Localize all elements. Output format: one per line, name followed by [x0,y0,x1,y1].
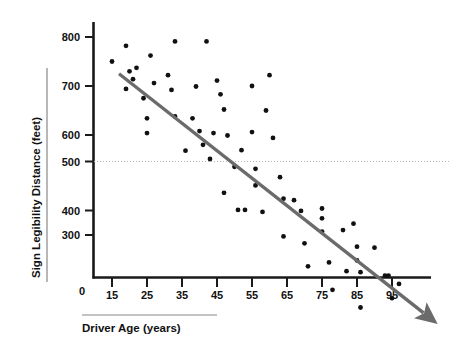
data-point [271,136,276,141]
data-point [152,81,157,86]
x-tick-label: 85 [351,289,363,301]
data-point [218,92,223,97]
x-tick-label: 35 [176,289,188,301]
data-point [208,157,213,162]
data-point [173,39,178,44]
data-point [197,129,202,134]
data-point [131,77,136,82]
y-axis-title: Sign Legibility Distance (feet) [30,117,42,278]
data-point [299,209,304,214]
data-point [225,133,230,138]
data-point [110,59,115,64]
data-point [204,39,209,44]
scatter-plot: Sign Legibility Distance (feet) 800 700 … [0,0,451,350]
data-points-layer [110,39,402,310]
data-point [211,131,216,136]
data-point [141,96,146,101]
data-point [145,116,150,121]
data-point [222,190,227,195]
y-tick-label: 300 [62,229,80,241]
data-point [327,260,332,265]
data-point [320,216,325,221]
y-tick-label: 700 [62,80,80,92]
data-point [341,228,346,233]
y-tick-label: 600 [62,129,80,141]
y-tick-label: 500 [62,156,80,168]
y-axis-tick-labels: 800 700 600 500 400 300 [62,31,80,241]
data-point [190,116,195,121]
x-tick-label: 55 [246,289,258,301]
data-point [320,206,325,211]
data-point [344,269,349,274]
x-tick-label: 65 [281,289,293,301]
data-point [292,198,297,203]
data-point [372,245,377,250]
x-tick-label: 25 [141,289,153,301]
data-point [236,208,241,213]
data-point [194,84,199,89]
data-point [330,287,335,292]
data-point [127,69,132,74]
data-point [390,296,395,301]
data-point [239,148,244,153]
data-point [215,78,220,83]
x-axis-title: Driver Age (years) [82,322,181,334]
data-point [355,244,360,249]
chart-container: Sign Legibility Distance (feet) 800 700 … [0,0,451,350]
data-point [397,282,402,287]
x-tick-label: 45 [211,289,223,301]
data-point [243,208,248,213]
x-axis-ticks [112,278,392,287]
data-point [358,305,363,310]
data-point [260,210,265,215]
data-point [169,88,174,93]
y-axis-ticks [85,37,93,235]
data-point [145,131,150,136]
data-point [183,148,188,153]
data-point [281,234,286,239]
data-point [264,108,269,113]
data-point [134,65,139,70]
data-point [250,130,255,135]
data-point [302,241,307,246]
data-point [278,175,283,180]
data-point [267,73,272,78]
data-point [222,107,227,112]
origin-zero-label: 0 [79,285,85,297]
data-point [124,43,129,48]
y-tick-label: 800 [62,31,80,43]
data-point [306,264,311,269]
data-point [166,73,171,78]
data-point [148,53,153,58]
data-point [253,166,258,171]
y-tick-label: 400 [62,205,80,217]
data-point [250,84,255,89]
x-tick-label: 15 [106,289,118,301]
data-point [124,87,129,92]
x-tick-label: 75 [316,289,328,301]
data-point [386,273,391,278]
data-point [351,221,356,226]
x-axis-tick-labels: 15 25 35 45 55 65 75 85 95 [106,289,398,301]
data-point [358,270,363,275]
